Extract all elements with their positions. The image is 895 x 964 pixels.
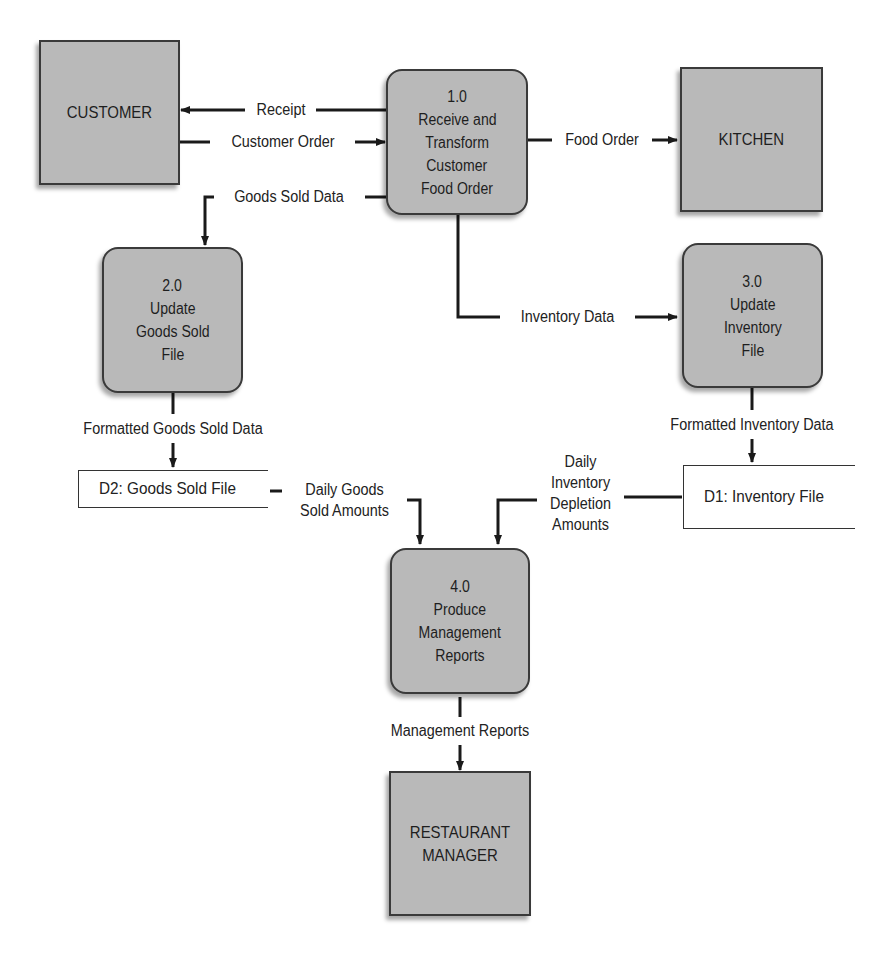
process-label-line: Food Order — [421, 177, 493, 200]
process-label-line: Reports — [435, 644, 484, 667]
process-label-line: Inventory — [724, 316, 782, 339]
process-4-produce-reports[interactable]: 4.0 Produce Management Reports — [390, 548, 530, 694]
process-number: 3.0 — [743, 270, 763, 293]
store-label: D2: Goods Sold File — [99, 479, 236, 499]
dgsa-line-right — [407, 500, 420, 544]
process-label-line: Customer — [426, 154, 487, 177]
goods-sold-line-left — [205, 197, 214, 245]
flow-label-line: Inventory — [541, 472, 619, 493]
process-label-line: Management — [419, 621, 501, 644]
flow-label-management-reports: Management Reports — [375, 720, 546, 741]
flow-label-food-order: Food Order — [555, 129, 649, 150]
flow-label-formatted-goods-sold-data: Formatted Goods Sold Data — [65, 418, 281, 439]
process-label-line: Update — [730, 293, 775, 316]
entity-label-line: RESTAURANT — [410, 821, 510, 844]
flow-label-receipt: Receipt — [250, 99, 313, 120]
flow-label-customer-order: Customer Order — [216, 131, 351, 152]
entity-customer[interactable]: CUSTOMER — [39, 40, 180, 185]
flow-label-line: Daily — [541, 451, 619, 472]
process-label-line: Produce — [434, 598, 486, 621]
entity-kitchen[interactable]: KITCHEN — [680, 67, 823, 212]
process-number: 2.0 — [163, 274, 183, 297]
flow-label-daily-inventory-depletion-amounts: Daily Inventory Depletion Amounts — [541, 451, 619, 535]
process-number: 4.0 — [450, 575, 470, 598]
entity-label: KITCHEN — [719, 128, 785, 151]
process-label-line: Transform — [425, 131, 489, 154]
flow-label-line: Sold Amounts — [288, 500, 401, 521]
process-label-line: File — [161, 343, 184, 366]
store-label: D1: Inventory File — [704, 487, 824, 507]
entity-restaurant-manager[interactable]: RESTAURANT MANAGER — [389, 771, 531, 916]
flow-label-goods-sold-data: Goods Sold Data — [221, 186, 358, 207]
entity-label: CUSTOMER — [67, 101, 152, 124]
dida-line-left — [498, 500, 537, 544]
process-label-line: Update — [150, 297, 195, 320]
flow-label-inventory-data: Inventory Data — [507, 306, 629, 327]
flow-label-line: Depletion — [541, 493, 619, 514]
flow-label-formatted-inventory-data: Formatted Inventory Data — [655, 414, 849, 435]
store-d2-goods-sold-file[interactable]: D2: Goods Sold File — [78, 470, 268, 508]
dfd-canvas: CUSTOMER KITCHEN RESTAURANT MANAGER 1.0 … — [0, 0, 895, 964]
process-label-line: Goods Sold — [136, 320, 210, 343]
process-3-update-inventory[interactable]: 3.0 Update Inventory File — [682, 243, 823, 388]
process-label-line: File — [741, 339, 764, 362]
flow-label-daily-goods-sold-amounts: Daily Goods Sold Amounts — [288, 479, 401, 521]
flow-label-line: Daily Goods — [288, 479, 401, 500]
process-number: 1.0 — [447, 85, 467, 108]
flow-label-line: Amounts — [541, 514, 619, 535]
entity-label-line: MANAGER — [422, 844, 498, 867]
process-label-line: Receive and — [418, 108, 496, 131]
store-d1-inventory-file[interactable]: D1: Inventory File — [683, 465, 855, 529]
inventory-data-line-left — [458, 214, 500, 317]
process-2-update-goods-sold[interactable]: 2.0 Update Goods Sold File — [102, 247, 243, 393]
process-1-receive-transform[interactable]: 1.0 Receive and Transform Customer Food … — [386, 69, 528, 215]
